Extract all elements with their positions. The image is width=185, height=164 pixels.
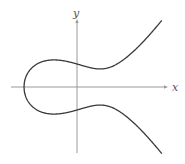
curve-lower-branch — [24, 87, 162, 154]
y-axis-label: y — [72, 7, 80, 20]
elliptic-curve-diagram: x y — [0, 0, 185, 164]
x-axis-label: x — [172, 81, 179, 94]
curve-upper-branch — [24, 20, 162, 87]
axes: x y — [11, 7, 179, 153]
x-axis-arrow-icon — [164, 85, 168, 88]
